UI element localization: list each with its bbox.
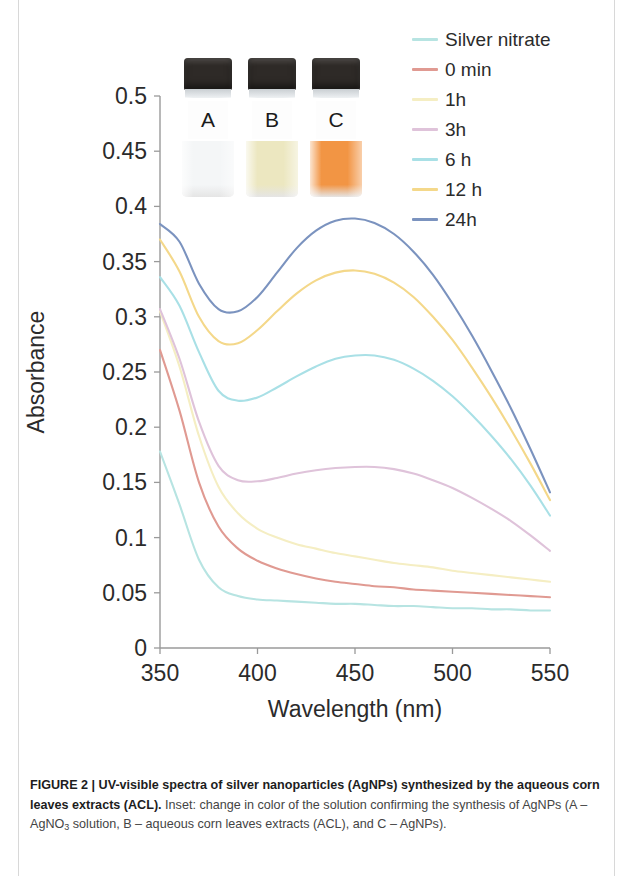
legend-swatch-icon bbox=[412, 188, 438, 191]
legend-item-label: Silver nitrate bbox=[445, 30, 551, 49]
vial-a-label: A bbox=[188, 101, 228, 139]
legend-item-label: 6 h bbox=[445, 150, 471, 169]
inset-photograph-vials: A B C bbox=[178, 52, 370, 200]
y-tick-label: 0.5 bbox=[115, 83, 147, 109]
y-tick-label: 0.35 bbox=[102, 249, 147, 275]
legend-item-0-min[interactable]: 0 min bbox=[412, 54, 618, 84]
y-tick-label: 0.25 bbox=[102, 359, 147, 385]
figure-caption: FIGURE 2 | UV-visible spectra of silver … bbox=[30, 776, 605, 836]
vial-c: C bbox=[308, 58, 364, 198]
legend-item-24h[interactable]: 24h bbox=[412, 204, 618, 234]
series-line-3h bbox=[160, 309, 550, 551]
vial-c-body: C bbox=[310, 97, 362, 197]
chart-series-lines bbox=[160, 218, 550, 610]
vial-b-body: B bbox=[246, 97, 298, 197]
caption-subscript-3: 3 bbox=[64, 822, 69, 832]
series-line-silver-nitrate bbox=[160, 451, 550, 610]
legend-item-12-h[interactable]: 12 h bbox=[412, 174, 618, 204]
y-tick-label: 0 bbox=[134, 635, 147, 661]
chart-legend: Silver nitrate0 min1h3h6 h12 h24h bbox=[412, 24, 618, 234]
figure-2-root: 350400450500550 00.050.10.150.20.250.30.… bbox=[0, 0, 629, 876]
legend-swatch-icon bbox=[412, 158, 438, 161]
legend-item-label: 12 h bbox=[445, 180, 482, 199]
legend-item-1h[interactable]: 1h bbox=[412, 84, 618, 114]
y-tick-label: 0.4 bbox=[115, 193, 147, 219]
legend-swatch-icon bbox=[412, 68, 438, 71]
legend-swatch-icon bbox=[412, 218, 438, 221]
legend-item-3h[interactable]: 3h bbox=[412, 114, 618, 144]
legend-item-label: 1h bbox=[445, 90, 466, 109]
legend-item-label: 24h bbox=[445, 210, 477, 229]
series-line-1h bbox=[160, 311, 550, 581]
legend-item-label: 0 min bbox=[445, 60, 491, 79]
x-tick-label: 350 bbox=[141, 660, 179, 686]
series-line-0-min bbox=[160, 350, 550, 597]
vial-c-label: C bbox=[316, 101, 356, 139]
x-tick-label: 450 bbox=[336, 660, 374, 686]
y-tick-label: 0.1 bbox=[115, 525, 147, 551]
vial-a-body: A bbox=[182, 97, 234, 197]
y-axis-tick-labels: 00.050.10.150.20.250.30.350.40.450.5 bbox=[102, 83, 147, 661]
x-axis-title: Wavelength (nm) bbox=[268, 696, 442, 722]
x-tick-label: 550 bbox=[531, 660, 569, 686]
vial-b-label: B bbox=[252, 101, 292, 139]
vial-b: B bbox=[244, 58, 300, 198]
y-tick-label: 0.2 bbox=[115, 414, 147, 440]
legend-swatch-icon bbox=[412, 98, 438, 101]
legend-item-6-h[interactable]: 6 h bbox=[412, 144, 618, 174]
vial-a-cap bbox=[184, 58, 232, 90]
legend-swatch-icon bbox=[412, 38, 438, 41]
y-tick-label: 0.3 bbox=[115, 304, 147, 330]
x-tick-label: 400 bbox=[238, 660, 276, 686]
legend-swatch-icon bbox=[412, 128, 438, 131]
y-tick-label: 0.05 bbox=[102, 580, 147, 606]
y-tick-label: 0.45 bbox=[102, 138, 147, 164]
caption-rest-2: solution, B – aqueous corn leaves extrac… bbox=[69, 817, 446, 831]
y-tick-label: 0.15 bbox=[102, 469, 147, 495]
vial-c-cap bbox=[312, 58, 360, 90]
vial-a: A bbox=[180, 58, 236, 198]
legend-item-silver-nitrate[interactable]: Silver nitrate bbox=[412, 24, 618, 54]
x-axis-tick-labels: 350400450500550 bbox=[141, 660, 569, 686]
vial-b-cap bbox=[248, 58, 296, 90]
x-tick-label: 500 bbox=[433, 660, 471, 686]
y-axis-title: Absorbance bbox=[23, 311, 49, 434]
legend-item-label: 3h bbox=[445, 120, 466, 139]
